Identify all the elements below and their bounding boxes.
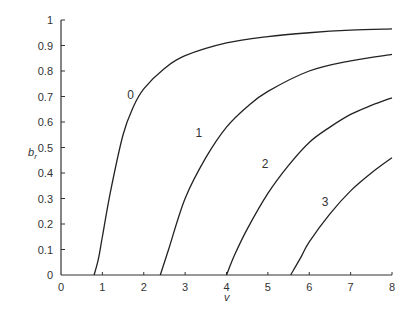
y-tick-label: 1	[47, 14, 53, 26]
y-tick-label: 0.3	[38, 193, 53, 205]
curve-1	[160, 54, 392, 275]
y-tick-label: 0.4	[38, 167, 53, 179]
curve-3	[291, 158, 392, 275]
axes: 01234567800.10.20.30.40.50.60.70.80.91	[38, 14, 395, 293]
y-tick-label: 0.9	[38, 40, 53, 52]
x-axis-label: v	[224, 291, 231, 303]
chart: 01234567800.10.20.30.40.50.60.70.80.91 0…	[0, 0, 414, 320]
y-tick-label: 0.7	[38, 91, 53, 103]
x-tick-label: 1	[99, 281, 105, 293]
y-tick-label: 0.1	[38, 244, 53, 256]
y-tick-label: 0.2	[38, 218, 53, 230]
curve-label-2: 2	[262, 157, 269, 171]
x-tick-label: 8	[389, 281, 395, 293]
curve-label-3: 3	[322, 195, 329, 209]
x-tick-label: 6	[306, 281, 312, 293]
y-tick-label: 0.8	[38, 65, 53, 77]
curve-2	[227, 98, 393, 275]
x-tick-label: 7	[348, 281, 354, 293]
x-tick-label: 2	[141, 281, 147, 293]
x-tick-label: 0	[58, 281, 64, 293]
y-tick-label: 0	[47, 269, 53, 281]
y-tick-label: 0.5	[38, 142, 53, 154]
curve-label-1: 1	[195, 126, 202, 140]
x-tick-label: 5	[265, 281, 271, 293]
curve-label-0: 0	[127, 88, 134, 102]
y-axis-label: br	[28, 146, 37, 161]
y-tick-label: 0.6	[38, 116, 53, 128]
x-tick-label: 3	[182, 281, 188, 293]
curves: 0123	[94, 29, 392, 275]
